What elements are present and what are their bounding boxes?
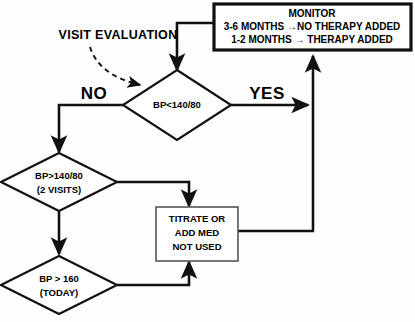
connector-caption-pointer: [90, 47, 140, 85]
connector-decision1-no-to-decision2: [59, 105, 124, 152]
titrate-box-line3: NOT USED: [172, 241, 221, 252]
connector-monitor-to-decision1: [177, 23, 214, 70]
connector-decision3-to-titrate: [117, 262, 189, 285]
decision-bp-gt-160-today: [1, 256, 117, 314]
decision-bp-gt-140-80-2-visits: [1, 153, 117, 211]
decision2-line1: BP>140/80: [35, 170, 83, 181]
monitor-box-line3: 1-2 MONTHS → THERAPY ADDED: [231, 34, 393, 45]
decision3-line1: BP > 160: [39, 273, 79, 284]
monitor-box-line1: MONITOR: [288, 8, 336, 19]
decision1-line1: BP<140/80: [153, 99, 201, 110]
flowchart-svg: MONITOR 3-6 MONTHS →NO THERAPY ADDED 1-2…: [0, 0, 415, 322]
decision3-line2: (TODAY): [40, 287, 79, 298]
connector-decision2-to-titrate: [117, 182, 189, 206]
flowchart-canvas: MONITOR 3-6 MONTHS →NO THERAPY ADDED 1-2…: [0, 0, 415, 322]
decision2-line2: (2 VISITS): [37, 184, 81, 195]
visit-evaluation-label: VISIT EVALUATION: [59, 28, 178, 42]
titrate-box-line2: ADD MED: [175, 227, 219, 238]
titrate-box-line1: TITRATE OR: [169, 213, 225, 224]
branch-label-no: NO: [81, 84, 108, 103]
monitor-box-line2: 3-6 MONTHS →NO THERAPY ADDED: [224, 21, 401, 32]
branch-label-yes: YES: [249, 84, 285, 103]
